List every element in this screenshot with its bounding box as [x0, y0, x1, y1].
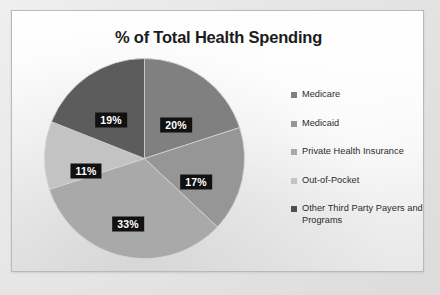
slide-photo-background: % of Total Health Spending 20%17%33%11%1…	[0, 0, 440, 295]
legend-item-label: Out-of-Pocket	[302, 175, 359, 187]
pie-data-label: 11%	[70, 164, 101, 179]
legend-swatch-icon	[291, 178, 297, 184]
chart-legend: MedicareMedicaidPrivate Health Insurance…	[291, 89, 424, 243]
legend-item[interactable]: Medicare	[291, 89, 424, 101]
legend-swatch-icon	[291, 121, 297, 127]
legend-item[interactable]: Other Third Party Payers and Programs	[291, 203, 424, 226]
legend-item-label: Medicare	[302, 89, 340, 101]
legend-item[interactable]: Private Health Insurance	[291, 146, 424, 158]
legend-item[interactable]: Medicaid	[291, 118, 424, 130]
pie-data-label: 20%	[160, 118, 192, 133]
chart-slide-frame: % of Total Health Spending 20%17%33%11%1…	[11, 10, 424, 272]
pie-data-label: 17%	[180, 175, 212, 190]
legend-item-label: Private Health Insurance	[302, 146, 404, 158]
pie-data-label: 19%	[95, 113, 127, 128]
legend-item[interactable]: Out-of-Pocket	[291, 175, 424, 187]
legend-item-label: Other Third Party Payers and Programs	[302, 203, 424, 226]
pie-slice-group	[45, 59, 245, 259]
chart-title: % of Total Health Spending	[12, 28, 424, 47]
legend-swatch-icon	[291, 149, 297, 155]
legend-swatch-icon	[291, 206, 297, 212]
pie-data-label: 33%	[112, 217, 144, 232]
legend-item-label: Medicaid	[302, 118, 339, 130]
pie-chart: 20%17%33%11%19%	[44, 58, 245, 259]
pie-chart-svg	[44, 58, 245, 259]
legend-swatch-icon	[291, 92, 297, 98]
